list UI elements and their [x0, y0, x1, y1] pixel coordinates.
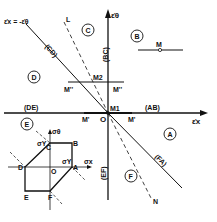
svg-text:A: A: [73, 164, 78, 171]
svg-text:σθ: σθ: [52, 128, 61, 135]
x-axis-label: ε̇x: [192, 117, 201, 126]
m-dbl-left-label: M'': [64, 86, 73, 93]
m-prime-left-label: M': [82, 116, 90, 123]
bc-label: (BC): [102, 47, 110, 62]
inset-x-arrow-icon: [87, 165, 92, 169]
svg-text:B: B: [73, 140, 78, 147]
l-label: L: [66, 16, 71, 23]
svg-text:D: D: [32, 74, 37, 81]
region-c: C: [82, 24, 94, 36]
region-f: F: [125, 170, 137, 182]
m-prime-right-label: M': [128, 116, 136, 123]
svg-text:E: E: [24, 194, 29, 201]
svg-text:σx: σx: [84, 158, 93, 165]
m2-label: M2: [93, 74, 103, 81]
origin-label: O: [100, 115, 106, 124]
inset-yield-locus: σθ σx O σY σY A B C D E F: [8, 128, 93, 210]
n-label: N: [153, 198, 158, 205]
svg-text:O: O: [51, 168, 57, 175]
fa-line: [108, 113, 182, 188]
svg-text:F: F: [48, 194, 53, 201]
svg-text:C: C: [46, 144, 51, 151]
svg-text:D: D: [18, 164, 23, 171]
y-axis-label: ε̇θ: [111, 11, 119, 20]
svg-text:F: F: [129, 173, 134, 180]
svg-text:C: C: [86, 27, 91, 34]
dashed-line-n: [108, 113, 152, 200]
ab-label: (AB): [145, 104, 160, 112]
ef-label: (EF): [100, 166, 108, 180]
svg-text:σY: σY: [62, 158, 72, 165]
svg-text:B: B: [135, 33, 140, 40]
svg-text:E: E: [25, 121, 30, 128]
cd-line: [26, 24, 108, 113]
de-label: (DE): [24, 104, 38, 112]
m-point-icon: [158, 48, 161, 51]
m-label: M: [156, 41, 162, 48]
region-b: B: [131, 30, 143, 42]
svg-text:A: A: [168, 131, 173, 138]
region-e: E: [21, 118, 33, 130]
region-a: A: [164, 128, 176, 140]
m-dbl-right-label: M'': [113, 86, 122, 93]
x-axis-arrow-icon: [200, 110, 208, 116]
m1-label: M1: [110, 105, 120, 112]
region-d: D: [28, 71, 40, 83]
cd-endpoint-label: ε̇x = -ε̇θ: [4, 18, 29, 25]
strain-rate-diagram: ε̇θ ε̇x O ε̇x = -ε̇θ (CD) (FA) (BC) (AB)…: [0, 0, 217, 222]
